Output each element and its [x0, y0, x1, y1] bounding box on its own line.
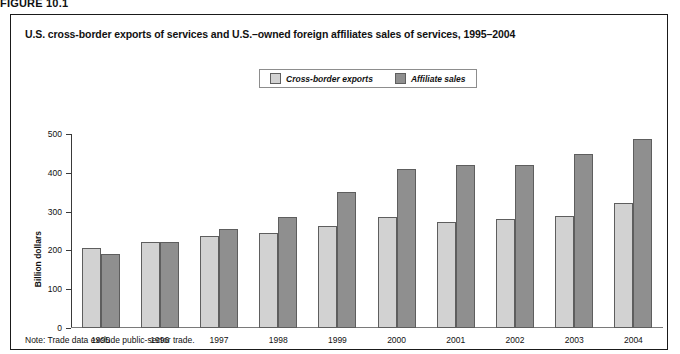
bar-group: 2001 — [426, 134, 485, 328]
bar-groups: 1995199619971998199920002001200220032004 — [71, 134, 663, 328]
bar-affiliate-sales — [219, 229, 238, 328]
bar-group: 2003 — [545, 134, 604, 328]
y-tick-label: 0 — [57, 323, 62, 333]
bar-affiliate-sales — [633, 139, 652, 328]
chart-legend: Cross-border exports Affiliate sales — [259, 69, 477, 88]
bar-group: 2004 — [604, 134, 663, 328]
x-tick-label: 1999 — [308, 335, 367, 345]
legend-swatch-icon-affiliate — [395, 73, 406, 84]
bar-exports — [378, 217, 397, 328]
x-tick-label: 2004 — [604, 335, 663, 345]
y-axis-title: Billion dollars — [33, 231, 43, 287]
bar-affiliate-sales — [160, 242, 179, 328]
legend-label-exports: Cross-border exports — [286, 74, 373, 84]
y-tick-label: 200 — [48, 245, 62, 255]
figure-root: FIGURE 10.1 U.S. cross-border exports of… — [0, 0, 680, 354]
bar-group: 1997 — [189, 134, 248, 328]
bar-group: 1996 — [130, 134, 189, 328]
bar-group: 2002 — [485, 134, 544, 328]
x-tick-label: 2003 — [545, 335, 604, 345]
x-tick-label: 2001 — [426, 335, 485, 345]
bar-group: 1999 — [308, 134, 367, 328]
figure-number-label: FIGURE 10.1 — [0, 0, 68, 9]
y-tick-label: 500 — [48, 129, 62, 139]
bar-affiliate-sales — [574, 154, 593, 328]
y-tick-label: 100 — [48, 284, 62, 294]
legend-item-affiliate-sales: Affiliate sales — [395, 73, 466, 84]
y-tick-label: 400 — [48, 168, 62, 178]
bar-exports — [200, 236, 219, 328]
bar-exports — [496, 219, 515, 328]
chart-title: U.S. cross-border exports of services an… — [25, 28, 515, 40]
bar-exports — [259, 233, 278, 328]
bar-exports — [614, 203, 633, 328]
x-tick-label: 2000 — [367, 335, 426, 345]
x-tick-label: 1998 — [249, 335, 308, 345]
bar-exports — [318, 226, 337, 328]
bar-affiliate-sales — [101, 254, 120, 328]
bar-exports — [437, 222, 456, 328]
legend-swatch-icon-exports — [270, 73, 281, 84]
y-tick — [66, 328, 71, 329]
plot-area: 0100200300400500 19951996199719981999200… — [71, 134, 663, 328]
bar-group: 1998 — [249, 134, 308, 328]
legend-item-cross-border-exports: Cross-border exports — [270, 73, 373, 84]
figure-frame: U.S. cross-border exports of services an… — [10, 14, 668, 350]
bar-affiliate-sales — [456, 165, 475, 328]
legend-label-affiliate: Affiliate sales — [411, 74, 466, 84]
bar-affiliate-sales — [515, 165, 534, 328]
bar-exports — [555, 216, 574, 328]
bar-exports — [82, 248, 101, 328]
y-tick-label: 300 — [48, 207, 62, 217]
bar-affiliate-sales — [278, 217, 297, 328]
bar-group: 1995 — [71, 134, 130, 328]
bar-exports — [141, 242, 160, 328]
x-tick-label: 1997 — [189, 335, 248, 345]
bar-affiliate-sales — [337, 192, 356, 328]
bar-group: 2000 — [367, 134, 426, 328]
figure-note: Note: Trade data exclude public-sector t… — [25, 335, 195, 345]
bar-affiliate-sales — [397, 169, 416, 328]
x-tick-label: 2002 — [485, 335, 544, 345]
